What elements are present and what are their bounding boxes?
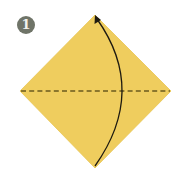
- origami-step-diagram: 1: [0, 0, 184, 178]
- step-number-badge: 1: [17, 16, 35, 34]
